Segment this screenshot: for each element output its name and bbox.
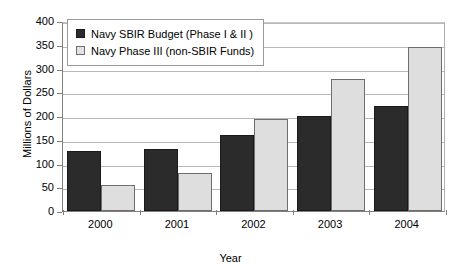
y-axis-tick-label: 200 [14,111,54,122]
y-axis-tick-mark [57,46,62,47]
bar-2002-series-0 [220,135,254,211]
bar-chart: Millions of Dollars 05010015020025030035… [0,0,461,277]
x-axis-title: Year [0,252,461,264]
x-axis-tick-labels: 20002001200220032004 [62,218,445,234]
x-axis-tick-mark [63,210,64,215]
legend-swatch-icon-series-1 [76,46,85,55]
x-axis-tick-label: 2001 [139,218,216,230]
legend: Navy SBIR Budget (Phase I & II ) Navy Ph… [67,19,264,66]
x-axis-tick-mark [140,210,141,215]
y-axis-tick-labels: 050100150200250300350400 [14,16,54,213]
x-axis-tick-label: 2002 [215,218,292,230]
legend-item-1: Navy Phase III (non-SBIR Funds) [76,42,254,59]
y-axis-tick-label: 0 [14,206,54,217]
y-axis-tick-mark [57,141,62,142]
legend-swatch-icon-series-0 [76,29,85,38]
bar-2001-series-1 [178,173,212,211]
legend-item-0: Navy SBIR Budget (Phase I & II ) [76,25,254,42]
bar-2004-series-1 [408,47,442,211]
x-axis-tick-label: 2000 [62,218,139,230]
x-axis-tick-mark [369,210,370,215]
bar-2002-series-1 [254,119,288,211]
x-axis-tick-label: 2003 [292,218,369,230]
y-axis-tick-mark [57,212,62,213]
y-axis-tick-label: 300 [14,64,54,75]
x-axis-tick-label: 2004 [368,218,445,230]
y-axis-tick-mark [57,117,62,118]
bar-2003-series-0 [297,116,331,211]
legend-label-series-0: Navy SBIR Budget (Phase I & II ) [91,28,253,40]
x-axis-tick-mark [293,210,294,215]
legend-label-series-1: Navy Phase III (non-SBIR Funds) [91,45,254,57]
y-axis-tick-mark [57,165,62,166]
y-axis-tick-label: 150 [14,135,54,146]
y-axis-tick-label: 350 [14,40,54,51]
y-axis-tick-mark [57,70,62,71]
bar-2001-series-0 [144,149,178,211]
y-axis-tick-label: 100 [14,159,54,170]
y-axis-tick-mark [57,188,62,189]
y-axis-tick-mark [57,93,62,94]
y-axis-tick-label: 50 [14,182,54,193]
y-axis-tick-label: 250 [14,87,54,98]
x-axis-tick-mark [446,210,447,215]
bar-2000-series-1 [101,185,135,211]
bar-2004-series-0 [374,106,408,211]
bar-2003-series-1 [331,79,365,211]
y-axis-tick-mark [57,22,62,23]
bar-2000-series-0 [67,151,101,211]
bar-group-2003 [293,23,370,211]
bar-group-2004 [369,23,446,211]
y-axis-tick-label: 400 [14,16,54,27]
x-axis-tick-mark [216,210,217,215]
